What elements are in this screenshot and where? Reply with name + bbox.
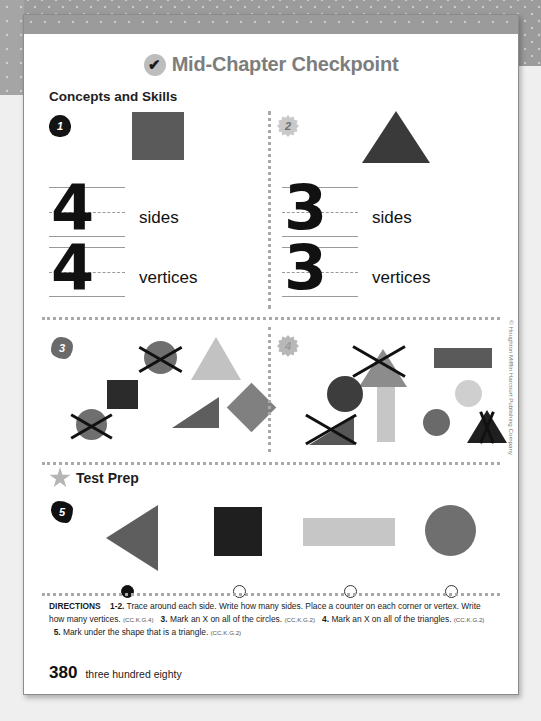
test-prep-option-circle[interactable] bbox=[425, 505, 476, 556]
problem-3-x-mark-2 bbox=[68, 403, 115, 446]
problem-2-vertices-label: vertices bbox=[372, 268, 431, 288]
test-prep-heading: Test Prep bbox=[76, 470, 139, 486]
problem-2-figure-triangle bbox=[362, 111, 430, 163]
problem-4-shape-circle-1[interactable] bbox=[327, 376, 363, 412]
problem-2-sides-value: 3 bbox=[284, 177, 327, 239]
directions-item-2-number: 3. bbox=[161, 614, 168, 624]
problem-1-figure-square bbox=[132, 112, 184, 160]
directions-item-2-standard: (CC.K.G.2) bbox=[284, 616, 315, 623]
directions-block: DIRECTIONS 1-2. Trace around each side. … bbox=[49, 600, 489, 639]
problem-3-shape-triangle[interactable] bbox=[191, 337, 241, 380]
problem-5-badge: 5 bbox=[51, 501, 73, 523]
concepts-and-skills-heading: Concepts and Skills bbox=[49, 89, 177, 104]
test-prep-option-square[interactable] bbox=[214, 507, 262, 556]
problem-1-answer-line-2[interactable]: 4 bbox=[49, 247, 125, 297]
directions-item-3-standard: (CC.K.G.2) bbox=[454, 616, 485, 623]
directions-item-3-text: Mark an X on all of the triangles. bbox=[331, 614, 451, 624]
check-circle-icon: ✔ bbox=[144, 54, 166, 76]
test-prep-bubble-1[interactable] bbox=[121, 585, 134, 598]
column-separator-bottom bbox=[268, 327, 271, 452]
problem-4-shape-rectangle[interactable] bbox=[434, 348, 492, 368]
row-separator-2 bbox=[42, 462, 500, 465]
problem-4-shape-circle-3[interactable] bbox=[423, 409, 450, 436]
test-prep-bubble-4[interactable] bbox=[445, 585, 458, 598]
problem-2-vertices-value: 3 bbox=[284, 237, 327, 299]
directions-item-3-number: 4. bbox=[322, 614, 329, 624]
column-separator-top bbox=[268, 111, 271, 309]
page-footer: 380 three hundred eighty bbox=[49, 663, 182, 683]
row-separator-3 bbox=[42, 593, 500, 596]
page-number-words: three hundred eighty bbox=[85, 668, 181, 680]
problem-4-shape-vertical-rectangle[interactable] bbox=[377, 387, 395, 442]
problem-2-answer-line-1[interactable]: 3 bbox=[282, 187, 358, 237]
problem-2-sides-label: sides bbox=[372, 208, 412, 228]
directions-item-1-standard: (CC.K.G.4) bbox=[123, 616, 154, 623]
problem-4-badge: 4 bbox=[277, 335, 299, 357]
test-prep-heading-row: Test Prep bbox=[49, 467, 139, 489]
problem-2-answer-line-2[interactable]: 3 bbox=[282, 247, 358, 297]
problem-2-badge: 2 bbox=[277, 115, 299, 137]
problem-3-x-mark-1 bbox=[136, 335, 185, 380]
problem-4-x-mark-3 bbox=[470, 403, 504, 449]
copyright-notice: © Houghton Mifflin Harcourt Publishing C… bbox=[508, 320, 515, 455]
problem-4-x-mark-1 bbox=[349, 345, 409, 375]
test-prep-option-triangle[interactable] bbox=[106, 505, 158, 571]
page-title-row: ✔ Mid-Chapter Checkpoint bbox=[24, 53, 518, 76]
problem-1-vertices-label: vertices bbox=[139, 268, 198, 288]
workbook-page: ✔ Mid-Chapter Checkpoint Concepts and Sk… bbox=[23, 14, 519, 695]
problem-4-x-mark-2 bbox=[302, 413, 360, 443]
test-prep-bubble-2[interactable] bbox=[233, 585, 246, 598]
problem-1-badge: 1 bbox=[49, 115, 71, 137]
directions-item-4-number: 5. bbox=[54, 627, 61, 637]
problem-1-sides-label: sides bbox=[139, 208, 179, 228]
scanned-page-background: ✔ Mid-Chapter Checkpoint Concepts and Sk… bbox=[0, 0, 541, 721]
directions-item-4-standard: (CC.K.G.2) bbox=[211, 629, 242, 636]
problem-1-sides-value: 4 bbox=[51, 177, 94, 239]
problem-3-shape-right-triangle[interactable] bbox=[172, 397, 219, 428]
directions-item-1-number: 1-2. bbox=[110, 601, 124, 611]
directions-item-4-text: Mark under the shape that is a triangle. bbox=[63, 627, 208, 637]
problem-1-answer-line-1[interactable]: 4 bbox=[49, 187, 125, 237]
test-prep-bubble-3[interactable] bbox=[344, 585, 357, 598]
star-icon bbox=[49, 467, 71, 489]
page-top-dot-band bbox=[24, 15, 518, 34]
directions-item-2-text: Mark an X on all of the circles. bbox=[170, 614, 282, 624]
test-prep-option-rectangle[interactable] bbox=[303, 518, 395, 546]
decorative-dot-band-left bbox=[0, 0, 24, 95]
page-title: Mid-Chapter Checkpoint bbox=[172, 53, 399, 76]
page-number: 380 bbox=[49, 663, 77, 683]
directions-label: DIRECTIONS bbox=[49, 601, 101, 611]
row-separator-1 bbox=[42, 317, 500, 320]
problem-3-badge: 3 bbox=[51, 337, 73, 359]
problem-1-vertices-value: 4 bbox=[51, 237, 94, 299]
